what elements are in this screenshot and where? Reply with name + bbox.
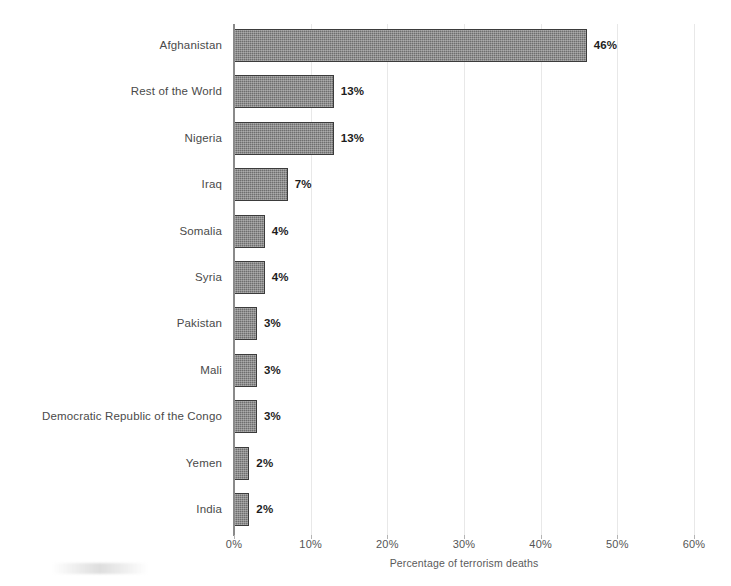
- category-label: Afghanistan: [160, 29, 222, 62]
- bar-row: 4%: [234, 215, 694, 248]
- category-label: Iraq: [202, 168, 222, 201]
- bar-value-label: 3%: [264, 354, 281, 387]
- bar: [234, 261, 265, 294]
- bar-row: 7%: [234, 168, 694, 201]
- bar-value-label: 13%: [341, 122, 365, 155]
- bar-row: 13%: [234, 122, 694, 155]
- terrorism-deaths-bar-chart: 46%13%13%7%4%4%3%3%3%2%2% AfghanistanRes…: [0, 0, 731, 586]
- bar-row: 46%: [234, 29, 694, 62]
- bar: [234, 75, 334, 108]
- x-tick-mark-20pct: [387, 535, 388, 539]
- category-axis: AfghanistanRest of the WorldNigeriaIraqS…: [0, 24, 222, 535]
- bar-value-label: 4%: [272, 215, 289, 248]
- x-tick-label: 10%: [281, 538, 341, 550]
- bar-value-label: 46%: [594, 29, 618, 62]
- x-tick-label: 40%: [511, 538, 571, 550]
- bar: [234, 122, 334, 155]
- category-label: Somalia: [179, 215, 222, 248]
- bar-row: 3%: [234, 307, 694, 340]
- x-tick-label: 20%: [357, 538, 417, 550]
- x-axis-tick-labels: 0%10%20%30%40%50%60%: [0, 538, 731, 556]
- bar-row: 2%: [234, 447, 694, 480]
- x-tick-mark-50pct: [617, 535, 618, 539]
- bar-value-label: 13%: [341, 75, 365, 108]
- gridline-60pct: [694, 24, 695, 535]
- bar-value-label: 3%: [264, 400, 281, 433]
- category-label: Rest of the World: [131, 75, 222, 108]
- x-tick-mark-0pct: [234, 535, 235, 539]
- bar-value-label: 4%: [272, 261, 289, 294]
- bar-row: 3%: [234, 400, 694, 433]
- bar: [234, 447, 249, 480]
- category-label: Yemen: [186, 447, 222, 480]
- bar-value-label: 2%: [256, 493, 273, 526]
- category-label: Democratic Republic of the Congo: [42, 400, 222, 433]
- bar: [234, 493, 249, 526]
- bar-value-label: 2%: [256, 447, 273, 480]
- x-tick-mark-40pct: [541, 535, 542, 539]
- bar-row: 3%: [234, 354, 694, 387]
- bar: [234, 215, 265, 248]
- x-tick-mark-60pct: [694, 535, 695, 539]
- bar: [234, 168, 288, 201]
- scan-artifact-smudge: [52, 563, 148, 574]
- x-tick-mark-10pct: [311, 535, 312, 539]
- bar-row: 2%: [234, 493, 694, 526]
- bar-row: 4%: [234, 261, 694, 294]
- category-label: Mali: [200, 354, 222, 387]
- x-tick-mark-30pct: [464, 535, 465, 539]
- category-label: India: [196, 493, 222, 526]
- bar: [234, 29, 587, 62]
- bar: [234, 354, 257, 387]
- x-axis-title: Percentage of terrorism deaths: [234, 557, 694, 569]
- bar-value-label: 7%: [295, 168, 312, 201]
- category-label: Nigeria: [185, 122, 222, 155]
- bar-value-label: 3%: [264, 307, 281, 340]
- x-tick-label: 60%: [664, 538, 724, 550]
- x-tick-label: 0%: [204, 538, 264, 550]
- bar: [234, 400, 257, 433]
- category-label: Syria: [195, 261, 222, 294]
- x-tick-label: 30%: [434, 538, 494, 550]
- category-label: Pakistan: [177, 307, 222, 340]
- bar: [234, 307, 257, 340]
- value-axis-line: [233, 24, 235, 536]
- x-tick-label: 50%: [587, 538, 647, 550]
- plot-area: 46%13%13%7%4%4%3%3%3%2%2%: [234, 24, 694, 535]
- bar-row: 13%: [234, 75, 694, 108]
